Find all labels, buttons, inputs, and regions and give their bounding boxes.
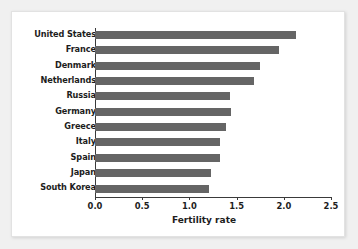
x-tick-mark bbox=[237, 197, 238, 200]
bar-fill bbox=[95, 138, 220, 146]
bar bbox=[95, 185, 209, 193]
bar-fill bbox=[95, 185, 209, 193]
bar-fill bbox=[95, 108, 231, 116]
x-axis-line bbox=[95, 197, 332, 198]
category-label: Italy bbox=[0, 137, 96, 145]
bar-fill bbox=[95, 31, 296, 39]
category-label: South Korea bbox=[0, 183, 96, 191]
bar bbox=[95, 154, 220, 162]
x-tick-mark bbox=[284, 197, 285, 200]
x-tick-mark bbox=[189, 197, 190, 200]
chart-card: United StatesFranceDenmarkNetherlandsRus… bbox=[11, 11, 345, 237]
bar-fill bbox=[95, 169, 211, 177]
x-tick-label: 0.5 bbox=[122, 202, 162, 210]
x-tick-label: 2.5 bbox=[311, 202, 351, 210]
x-tick-label: 1.0 bbox=[169, 202, 209, 210]
bar bbox=[95, 62, 260, 70]
bar bbox=[95, 123, 226, 131]
category-label: Russia bbox=[0, 91, 96, 99]
x-tick-mark bbox=[331, 197, 332, 200]
x-tick-mark bbox=[142, 197, 143, 200]
bar-fill bbox=[95, 123, 226, 131]
category-label: United States bbox=[0, 30, 96, 38]
x-tick-mark bbox=[95, 197, 96, 200]
bar bbox=[95, 46, 279, 54]
category-label: France bbox=[0, 45, 96, 53]
bar bbox=[95, 169, 211, 177]
bar-chart-plot: United StatesFranceDenmarkNetherlandsRus… bbox=[12, 12, 346, 238]
category-label: Greece bbox=[0, 122, 96, 130]
x-axis-title: Fertility rate bbox=[12, 215, 346, 225]
bar bbox=[95, 31, 296, 39]
bar bbox=[95, 77, 254, 85]
category-label: Denmark bbox=[0, 61, 96, 69]
x-tick-label: 1.5 bbox=[217, 202, 257, 210]
x-tick-label: 0.0 bbox=[75, 202, 115, 210]
category-label: Netherlands bbox=[0, 76, 96, 84]
bar bbox=[95, 92, 230, 100]
x-tick-label: 2.0 bbox=[264, 202, 304, 210]
category-label: Japan bbox=[0, 168, 96, 176]
category-label: Spain bbox=[0, 153, 96, 161]
bar-fill bbox=[95, 77, 254, 85]
bar-fill bbox=[95, 62, 260, 70]
bar bbox=[95, 108, 231, 116]
bar bbox=[95, 138, 220, 146]
bar-fill bbox=[95, 46, 279, 54]
bar-fill bbox=[95, 92, 230, 100]
bar-fill bbox=[95, 154, 220, 162]
category-label: Germany bbox=[0, 107, 96, 115]
